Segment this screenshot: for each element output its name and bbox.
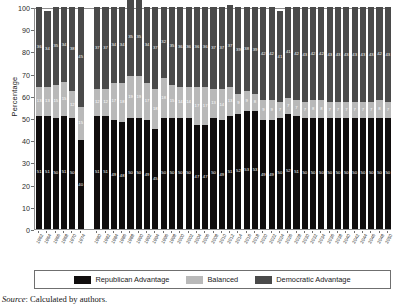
bar-segment-bal: 7 (293, 100, 299, 116)
x-tick-label: 1962 (35, 233, 44, 244)
bar-segment-value: 32 (161, 40, 166, 44)
bar-segment-rep: 50 (302, 118, 308, 229)
bar-segment-value: 36 (186, 45, 191, 49)
bar-segment-rep: 51 (94, 116, 100, 229)
bar-segment-dem: 34 (144, 7, 150, 82)
bar-segment-value: 15 (170, 99, 175, 103)
stacked-bar: 50743 (343, 7, 349, 229)
x-tick-label: 2020 (260, 233, 269, 244)
bar-segment-value: 34 (145, 43, 150, 47)
bar-segment-bal: 13 (36, 87, 42, 116)
bar-segment-bal: 9 (269, 100, 275, 120)
stacked-bar: 49942 (260, 7, 266, 229)
x-tick-mark (80, 231, 81, 233)
bar-segment-value: 8 (312, 107, 314, 111)
x-tick-mark (213, 231, 214, 233)
y-tick-label: 80 (4, 48, 30, 57)
legend-item: Balanced (186, 275, 238, 284)
bar-segment-value: 7 (345, 108, 347, 112)
bar-segment-rep: 50 (69, 118, 75, 229)
bar-segment-dem: 43 (302, 7, 308, 102)
x-tick-label: 1988 (127, 233, 136, 244)
stacked-bar: 501535 (53, 7, 59, 229)
bar-segment-rep: 49 (260, 120, 266, 229)
bar-segment-rep: 51 (102, 116, 108, 229)
x-tick-mark (354, 231, 355, 233)
bar-segment-value: 45 (78, 55, 83, 59)
stacked-bar: 50743 (327, 7, 333, 229)
stacked-bar: 50743 (360, 7, 366, 229)
y-tick-mark (31, 230, 34, 231)
bar-segment-value: 47 (195, 175, 200, 179)
bar-segment-bal: 18 (152, 89, 158, 129)
x-tick-label: 1970 (69, 233, 78, 244)
stacked-bar: 501337 (210, 7, 216, 229)
x-tick-mark (329, 231, 330, 233)
bar-segment-bal: 8 (318, 100, 324, 118)
stacked-bar: 501535 (169, 7, 175, 229)
bar-segment-rep: 49 (144, 120, 150, 229)
legend-item: Democratic Advantage (255, 275, 350, 284)
stacked-bar: 51742 (293, 7, 299, 229)
x-tick-label: 2016 (243, 233, 252, 244)
x-tick-label: 2000 (176, 233, 185, 244)
bar-segment-bal: 12 (69, 91, 75, 118)
bar-segment-value: 50 (161, 171, 166, 175)
x-tick-label: 2040 (343, 233, 352, 244)
bar-segment-rep: 51 (36, 116, 42, 229)
bar-segment-value: 14 (186, 100, 191, 104)
stacked-bar: 501436 (186, 7, 192, 229)
bar-segment-value: 15 (78, 121, 83, 125)
bar-segment-value: 50 (136, 171, 141, 175)
bar-segment-value: 18 (153, 107, 158, 111)
stacked-bar: 511237 (102, 7, 108, 229)
y-tick-label: 60 (4, 92, 30, 101)
bar-segment-value: 43 (386, 53, 391, 57)
bar-segment-value: 42 (261, 52, 266, 56)
bar-segment-value: 9 (262, 108, 264, 112)
bar-segment-value: 50 (319, 171, 324, 175)
bar-segment-dem: 43 (335, 7, 341, 102)
bar-segment-value: 18 (161, 96, 166, 100)
bar-segment-dem: 35 (127, 0, 133, 76)
bar-segment-value: 9 (237, 101, 239, 105)
bar-segment-rep: 49 (219, 120, 225, 229)
bar-segment-value: 7 (370, 108, 372, 112)
bar-segment-value: 42 (377, 52, 382, 56)
source-text: Calculated by authors. (30, 294, 107, 304)
stacked-bar: 471736 (194, 7, 200, 229)
y-tick-mark (31, 119, 34, 120)
stacked-bar: 50743 (302, 7, 308, 229)
bar-segment-value: 17 (112, 99, 117, 103)
y-tick-mark (31, 30, 34, 31)
y-tick-label: 40 (4, 137, 30, 146)
bar-segment-rep: 50 (360, 118, 366, 229)
bar-segment-value: 34 (45, 47, 50, 51)
bar-segment-dem: 36 (194, 7, 200, 87)
bar-segment-rep: 49 (269, 120, 275, 229)
x-tick-label: 2042 (351, 233, 360, 244)
x-tick-label: 2046 (367, 233, 376, 244)
x-tick-mark (55, 231, 56, 233)
bar-segment-rep: 50 (53, 118, 59, 229)
bar-segment-dem: 35 (53, 7, 59, 85)
y-tick-mark (31, 8, 34, 9)
stacked-bar: 50741 (277, 11, 283, 229)
bar-segment-value: 15 (53, 99, 58, 103)
bar-segment-value: 51 (62, 170, 67, 174)
bar-segment-value: 51 (228, 170, 233, 174)
bar-segment-bal: 7 (335, 102, 341, 118)
bar-segment-rep: 50 (136, 118, 142, 229)
x-tick-label: 1964 (44, 233, 53, 244)
bar-segment-rep: 50 (177, 118, 183, 229)
bar-segment-value: 49 (112, 173, 117, 177)
bar-segment-bal: 13 (227, 87, 233, 116)
bar-segment-rep: 50 (310, 118, 316, 229)
bar-segment-value: 14 (219, 103, 224, 107)
stacked-bar: 511237 (94, 7, 100, 229)
bar-segment-value: 17 (203, 104, 208, 108)
bar-segment-value: 12 (70, 103, 75, 107)
bar-segment-bal: 7 (352, 102, 358, 118)
bar-segment-dem: 37 (219, 7, 225, 89)
bar-segment-rep: 50 (368, 118, 374, 229)
